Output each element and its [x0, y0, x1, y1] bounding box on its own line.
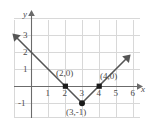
- x-axis-label: x: [141, 85, 145, 94]
- point-label-4-0: (4,0): [100, 72, 117, 81]
- x-tick-label-5: 5: [114, 89, 119, 98]
- y-tick-label-3: 3: [23, 31, 28, 40]
- x-tick-label-1: 1: [46, 89, 51, 98]
- graph-figure: y x 1 2 3 4 5 6 3 2 1 -1 (2,0) (4,0) (3,…: [0, 0, 152, 124]
- point-label-2-0: (2,0): [56, 69, 73, 78]
- y-tick-label-neg-1: -1: [18, 99, 26, 108]
- x-tick-label-2: 2: [63, 89, 68, 98]
- x-tick-label-3: 3: [80, 89, 85, 98]
- point-marker-vertex: [79, 100, 85, 106]
- x-tick-label-6: 6: [131, 89, 136, 98]
- y-tick-label-2: 2: [23, 48, 28, 57]
- point-label-vertex: (3,-1): [66, 108, 86, 117]
- x-tick-label-4: 4: [97, 89, 102, 98]
- y-tick-label-1: 1: [23, 65, 28, 74]
- y-axis-label: y: [23, 10, 27, 19]
- y-axis-arrowhead: [28, 10, 35, 16]
- grid-horizontal-lines: [14, 19, 140, 118]
